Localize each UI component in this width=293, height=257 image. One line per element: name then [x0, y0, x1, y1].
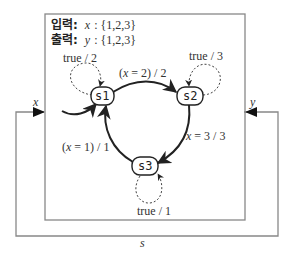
- output-var: y: [84, 33, 91, 47]
- output-declaration: 출력: y : {1,2,3}: [51, 30, 136, 47]
- s1-self-loop-label: true / 2: [63, 51, 97, 65]
- state-s2[interactable]: s2: [177, 87, 203, 105]
- output-set: : {1,2,3}: [94, 33, 136, 47]
- initial-state-arrow: [62, 104, 96, 114]
- state-s3-label: s3: [138, 159, 152, 173]
- s2-self-loop-label: true / 3: [189, 49, 223, 63]
- s3-self-loop: [136, 174, 162, 203]
- state-machine-diagram: x y s 입력: x : {1,2,3} 출력: y : {1,2,3} tr…: [0, 0, 293, 257]
- state-s2-label: s2: [183, 89, 197, 103]
- io-header: 입력: x : {1,2,3} 출력: y : {1,2,3}: [51, 15, 136, 47]
- output-label: 출력:: [51, 32, 78, 47]
- edge-s1-s2-label: (x = 2) / 2: [119, 66, 166, 80]
- s3-self-loop-label: true / 1: [137, 204, 171, 218]
- edge-s2-s3-label: x = 3 / 3: [185, 129, 225, 143]
- edge-s2-s3: [158, 105, 189, 163]
- input-set: : {1,2,3}: [94, 18, 136, 32]
- edge-s3-s1-label: (x = 1) / 1: [62, 140, 109, 154]
- output-port-label: y: [249, 95, 256, 109]
- feedback-label: s: [140, 236, 145, 250]
- input-label: 입력:: [51, 18, 78, 32]
- edge-s1-s2: [113, 82, 176, 93]
- state-s3[interactable]: s3: [132, 157, 158, 175]
- state-s1[interactable]: s1: [91, 87, 114, 105]
- input-port-label: x: [32, 95, 39, 109]
- state-s1-label: s1: [95, 89, 109, 103]
